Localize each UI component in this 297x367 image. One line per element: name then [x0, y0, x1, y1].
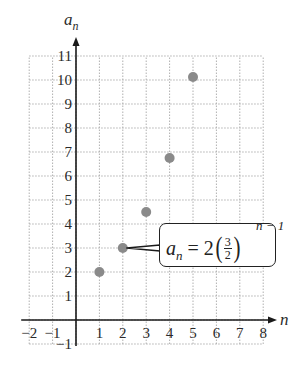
x-axis-label: n [280, 310, 289, 329]
right-paren: ) [233, 230, 240, 264]
y-tick-label: 11 [58, 48, 72, 64]
y-tick-label: 8 [65, 120, 73, 136]
x-tick-label: 2 [119, 325, 127, 341]
x-tick-label: 4 [166, 325, 174, 341]
formula-exponent: n − 1 [256, 218, 284, 234]
x-tick-label: 5 [189, 325, 197, 341]
formula-equals: = [188, 237, 199, 259]
x-tick-label: −2 [21, 325, 37, 341]
x-tick-label: 7 [236, 325, 244, 341]
y-axis-label: an [64, 10, 79, 33]
x-axis-arrow-icon [268, 317, 277, 324]
formula-lhs-subscript: n [176, 248, 183, 263]
formula-lhs: a [166, 237, 176, 259]
formula-callout: an = 2(32) n − 1 [159, 223, 276, 267]
left-paren: ( [215, 230, 222, 264]
y-tick-label: 4 [65, 216, 73, 232]
y-tick-label: −1 [56, 336, 72, 352]
data-point [94, 267, 104, 277]
x-tick-label: 3 [142, 325, 150, 341]
fraction-denominator: 2 [224, 249, 232, 261]
y-tick-label: 5 [65, 192, 73, 208]
fraction: 32 [224, 236, 232, 261]
data-point [188, 72, 198, 82]
callout-pointer [127, 245, 160, 251]
y-axis-arrow-icon [73, 37, 80, 46]
y-tick-label: 6 [65, 168, 73, 184]
callout-leader-line [127, 245, 160, 251]
x-tick-label: 6 [213, 325, 221, 341]
fraction-numerator: 3 [224, 236, 232, 249]
sequence-chart: −2−112345678−11234567891011 an n [0, 0, 297, 367]
y-tick-label: 1 [65, 288, 73, 304]
x-tick-label: 1 [96, 325, 104, 341]
y-tick-label: 10 [57, 72, 72, 88]
y-tick-label: 2 [65, 264, 73, 280]
y-tick-label: 7 [65, 144, 73, 160]
formula-coefficient: 2 [204, 237, 214, 259]
x-tick-label: 8 [259, 325, 267, 341]
formula: an = 2(32) [166, 233, 242, 267]
y-tick-label: 3 [65, 240, 73, 256]
data-point [165, 153, 175, 163]
data-point [141, 207, 151, 217]
y-tick-label: 9 [65, 96, 73, 112]
